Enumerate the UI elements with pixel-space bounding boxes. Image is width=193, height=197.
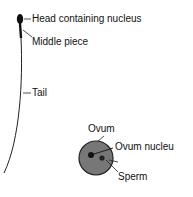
sperm-middle-piece [20, 23, 21, 38]
label-middle-piece: Middle piece [32, 37, 88, 47]
sperm-head [17, 14, 23, 24]
sperm-tail [4, 38, 22, 173]
sperm-in-ovum [99, 155, 104, 160]
ovum-cell [79, 141, 113, 175]
label-head: Head containing nucleus [32, 14, 142, 24]
label-ovum: Ovum [88, 124, 115, 134]
label-tail: Tail [32, 88, 47, 98]
diagram-drawing [0, 0, 193, 197]
label-ovum-nucleus: Ovum nucleu [115, 142, 174, 152]
label-sperm: Sperm [118, 172, 147, 182]
